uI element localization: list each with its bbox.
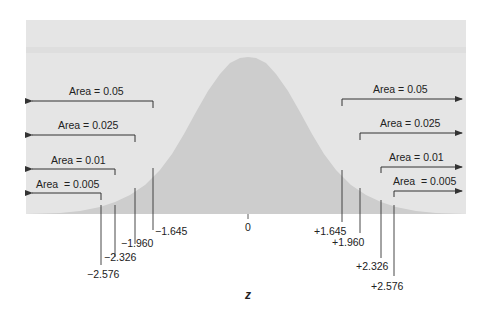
left-area-label-0025: Area = 0.025 — [58, 120, 118, 131]
left-critical-1960: −1.960 — [121, 238, 153, 249]
right-critical-1645: +1.645 — [314, 226, 346, 237]
right-critical-1960: +1.960 — [332, 237, 364, 248]
axis-variable-label: z — [245, 288, 251, 302]
left-critical-1645: −1.645 — [155, 226, 187, 237]
left-area-label-005: Area = 0.05 — [69, 86, 124, 97]
left-area-label-001: Area = 0.01 — [51, 155, 106, 166]
left-critical-2326: −2.326 — [104, 252, 136, 263]
right-area-label-0025: Area = 0.025 — [380, 118, 440, 129]
right-area-label-005: Area = 0.05 — [373, 84, 428, 95]
right-area-label-001: Area = 0.01 — [389, 152, 444, 163]
zero-label: 0 — [245, 222, 251, 233]
top-band — [26, 47, 466, 53]
right-critical-2576: +2.576 — [371, 281, 403, 292]
normal-distribution-diagram: Area = 0.05 Area = 0.025 Area = 0.01 Are… — [0, 0, 488, 315]
left-critical-2576: −2.576 — [87, 269, 119, 280]
right-area-label-0005: Area = 0.005 — [393, 176, 456, 187]
right-critical-2326: +2.326 — [356, 261, 388, 272]
left-area-label-0005: Area = 0.005 — [36, 179, 99, 190]
